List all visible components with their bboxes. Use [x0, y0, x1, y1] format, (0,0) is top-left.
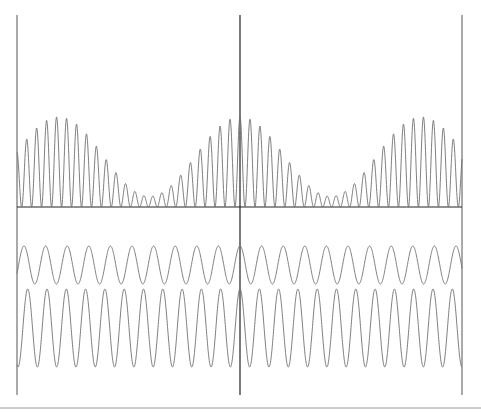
- beat-chart: [0, 0, 481, 413]
